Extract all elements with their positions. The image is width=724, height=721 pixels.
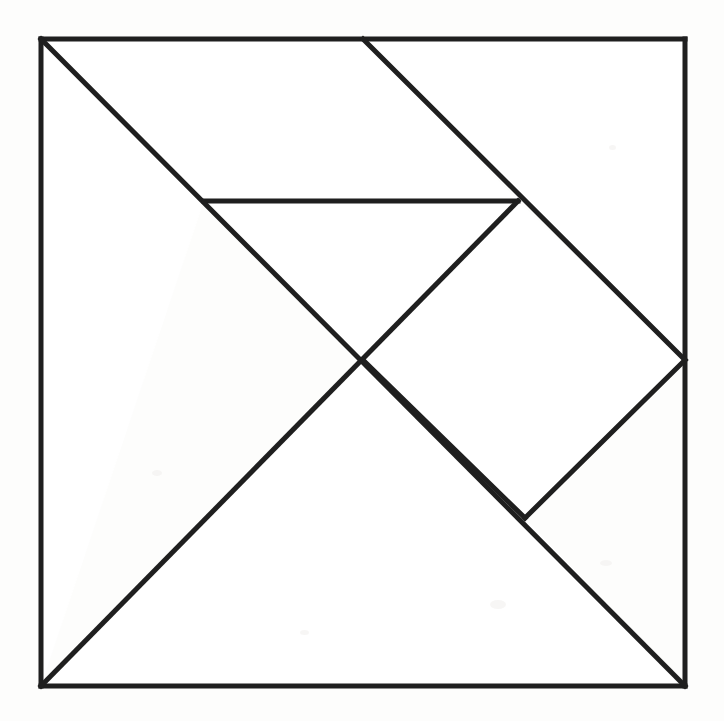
tangram-figure [0, 0, 724, 721]
tangram-svg [0, 0, 724, 721]
